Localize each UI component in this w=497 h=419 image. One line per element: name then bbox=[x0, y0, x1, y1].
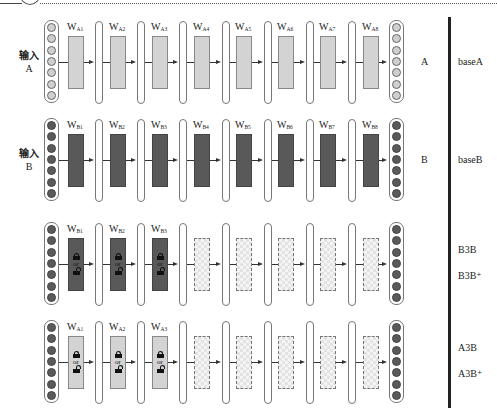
lock-body bbox=[115, 369, 122, 373]
arrow-head-icon bbox=[342, 360, 347, 364]
neuron bbox=[392, 368, 401, 377]
weight-layer-label: WB3 bbox=[151, 224, 167, 236]
lock-or-unlock-indicator: or bbox=[69, 253, 83, 275]
activation-layer bbox=[222, 321, 230, 404]
weight-subscript: B1 bbox=[76, 124, 82, 130]
weight-subscript: A2 bbox=[118, 326, 125, 332]
neuron bbox=[392, 380, 401, 389]
weight-subscript: B1 bbox=[76, 228, 82, 234]
neuron bbox=[392, 270, 401, 279]
weight-layer-label: WA2 bbox=[109, 322, 125, 334]
activation-layer bbox=[264, 321, 272, 404]
neuron bbox=[392, 144, 401, 153]
weight-layer-box bbox=[320, 336, 336, 389]
arrow-head-icon bbox=[258, 262, 263, 266]
weight-layer-label: WB5 bbox=[235, 120, 251, 132]
activation-layer bbox=[348, 223, 356, 306]
lock-icon bbox=[157, 253, 164, 260]
weight-layer-box bbox=[278, 134, 294, 187]
weight-layer-box bbox=[194, 134, 210, 187]
neuron bbox=[392, 293, 401, 302]
activation-layer bbox=[222, 223, 230, 306]
lock-body bbox=[115, 354, 122, 358]
activation-layer bbox=[179, 119, 187, 202]
unlock-icon bbox=[115, 268, 122, 275]
neuron bbox=[47, 391, 56, 400]
arrow-head-icon bbox=[258, 360, 263, 364]
neuron bbox=[392, 121, 401, 130]
connection-line bbox=[59, 160, 68, 161]
output-neuron-column bbox=[389, 118, 404, 201]
connection-line bbox=[356, 264, 363, 265]
model-label: baseB bbox=[458, 154, 482, 165]
neuron bbox=[392, 282, 401, 291]
weight-layer-box bbox=[194, 336, 210, 389]
connection-line bbox=[103, 264, 110, 265]
arrow-head-icon bbox=[216, 360, 221, 364]
lock-body bbox=[157, 256, 164, 260]
activation-layer bbox=[179, 223, 187, 306]
arrow-head-icon bbox=[89, 158, 94, 162]
arrow-head-icon bbox=[342, 158, 347, 162]
weight-layer-box bbox=[363, 336, 379, 389]
connection-line bbox=[187, 160, 194, 161]
unlock-icon bbox=[157, 268, 164, 275]
lock-body bbox=[73, 256, 80, 260]
activation-layer bbox=[137, 119, 145, 202]
neuron bbox=[392, 91, 401, 100]
weight-layer-box: or bbox=[68, 238, 84, 291]
input-label-sub: B bbox=[14, 160, 44, 173]
unlock-icon bbox=[73, 366, 80, 373]
activation-layer bbox=[306, 223, 314, 306]
weight-subscript: B5 bbox=[244, 124, 250, 130]
arrow-head-icon bbox=[131, 158, 136, 162]
neuron bbox=[392, 334, 401, 343]
neuron bbox=[47, 225, 56, 234]
activation-layer bbox=[264, 119, 272, 202]
neuron bbox=[47, 270, 56, 279]
lock-icon bbox=[73, 351, 80, 358]
neuron bbox=[392, 248, 401, 257]
connection-line bbox=[103, 362, 110, 363]
activation-layer bbox=[222, 119, 230, 202]
activation-layer bbox=[306, 321, 314, 404]
neuron bbox=[392, 391, 401, 400]
activation-layer bbox=[95, 119, 103, 202]
arrow-head-icon bbox=[382, 360, 387, 364]
neuron bbox=[392, 259, 401, 268]
activation-layer bbox=[137, 223, 145, 306]
connection-line bbox=[59, 362, 68, 363]
neuron bbox=[47, 334, 56, 343]
weight-layer-box bbox=[110, 134, 126, 187]
model-label: A3B⁺ bbox=[458, 368, 482, 379]
model-label: A3B bbox=[458, 342, 477, 353]
weight-layer-box bbox=[68, 134, 84, 187]
weight-layer-label: WB8 bbox=[362, 120, 378, 132]
weight-layer-box bbox=[363, 238, 379, 291]
lock-icon bbox=[115, 253, 122, 260]
neuron bbox=[392, 357, 401, 366]
weight-subscript: B6 bbox=[286, 124, 292, 130]
weight-layer-label: WA3 bbox=[151, 322, 167, 334]
lock-body bbox=[115, 271, 122, 275]
arrow-head-icon bbox=[382, 158, 387, 162]
lock-body bbox=[157, 354, 164, 358]
weight-subscript: B8 bbox=[371, 124, 377, 130]
neuron bbox=[47, 91, 56, 100]
lock-or-unlock-indicator: or bbox=[153, 351, 167, 373]
lock-or-unlock-indicator: or bbox=[111, 351, 125, 373]
neuron bbox=[47, 144, 56, 153]
connection-line bbox=[59, 264, 68, 265]
lock-body bbox=[73, 271, 80, 275]
neuron bbox=[392, 178, 401, 187]
arrow-head-icon bbox=[89, 262, 94, 266]
weight-layer-label: WA1 bbox=[67, 322, 83, 334]
input-label-text: 输入 bbox=[14, 147, 44, 160]
neuron bbox=[47, 293, 56, 302]
model-label: B3B bbox=[458, 244, 476, 255]
output-neuron-column bbox=[389, 320, 404, 403]
lock-body bbox=[157, 271, 164, 275]
arrow-head-icon bbox=[131, 262, 136, 266]
weight-subscript: B2 bbox=[118, 124, 124, 130]
weight-layer-box bbox=[278, 238, 294, 291]
